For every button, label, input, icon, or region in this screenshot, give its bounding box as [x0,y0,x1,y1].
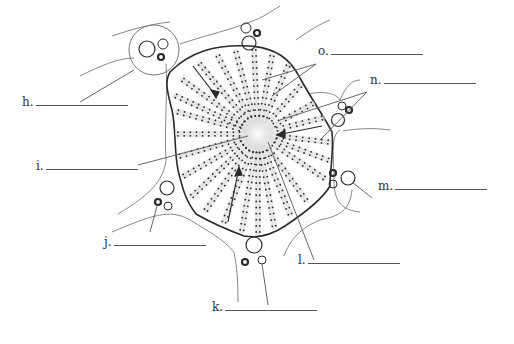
label-j: j. [104,236,206,248]
liver-lobule-diagram [0,0,514,344]
answer-blank[interactable] [46,169,138,170]
portal-triad-circle [129,25,179,75]
label-letter: k. [212,301,223,313]
label-letter: o. [318,45,329,57]
portal-triad-left [155,181,174,210]
label-l: l. [298,254,400,266]
label-letter: n. [370,74,382,86]
answer-blank[interactable] [114,245,206,246]
answer-blank[interactable] [36,105,128,106]
label-letter: j. [104,236,112,248]
portal-triad-top-left [139,39,168,60]
label-n: n. [370,74,476,86]
answer-blank[interactable] [384,83,476,84]
portal-triad-right-top [332,102,353,127]
label-i: i. [36,160,138,172]
portal-triad-bottom [242,237,266,265]
portal-triad-right-bottom [329,170,355,188]
label-letter: i. [36,160,44,172]
answer-blank[interactable] [331,54,423,55]
answer-blank[interactable] [308,263,400,264]
label-letter: h. [22,96,34,108]
answer-blank[interactable] [225,310,317,311]
label-letter: m. [378,180,393,192]
central-vein [244,120,272,148]
label-letter: l. [298,254,306,266]
label-o: o. [318,45,423,57]
label-m: m. [378,180,487,192]
label-h: h. [22,96,128,108]
label-k: k. [212,301,317,313]
answer-blank[interactable] [395,189,487,190]
